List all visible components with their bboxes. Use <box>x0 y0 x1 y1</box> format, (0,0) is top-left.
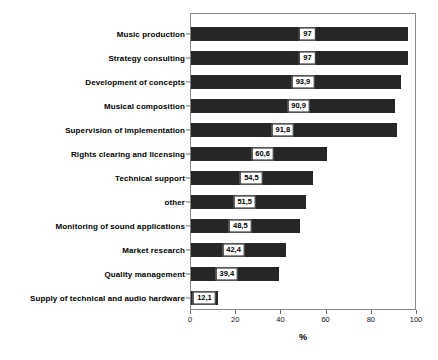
category-label: Technical support <box>115 174 185 183</box>
bar-value-label: 54,5 <box>240 172 263 185</box>
chart-row: Music production 97 <box>191 27 415 41</box>
bar-value-label: 39,4 <box>216 268 239 281</box>
x-tick-label: 80 <box>367 315 375 324</box>
bar-value-label: 48,5 <box>229 220 252 233</box>
x-tick-label: 0 <box>188 315 192 324</box>
x-tick-label: 20 <box>231 315 239 324</box>
bar-chart: Music production 97 Strategy consulting … <box>0 0 438 360</box>
bar-value-label: 97 <box>299 28 315 41</box>
chart-row: Development of concepts 93,9 <box>191 75 415 89</box>
x-tick-icon <box>235 310 236 314</box>
category-label: Development of concepts <box>85 78 185 87</box>
chart-row: Strategy consulting 97 <box>191 51 415 65</box>
category-label: Market research <box>122 246 185 255</box>
x-tick-label: 40 <box>276 315 284 324</box>
chart-row: Supply of technical and audio hardware 1… <box>191 291 415 305</box>
chart-row: other 51,5 <box>191 195 415 209</box>
category-label: Supply of technical and audio hardware <box>30 294 185 303</box>
bar-value-label: 93,9 <box>292 76 315 89</box>
chart-row: Rights clearing and licensing 60,6 <box>191 147 415 161</box>
chart-row: Monitoring of sound applications 48,5 <box>191 219 415 233</box>
category-label: Quality management <box>105 270 186 279</box>
bar-value-label: 91,8 <box>272 124 295 137</box>
category-label: Music production <box>117 30 185 39</box>
chart-row: Musical composition 90,9 <box>191 99 415 113</box>
chart-row: Quality management 39,4 <box>191 267 415 281</box>
bar-value-label: 60,6 <box>251 148 274 161</box>
x-tick-icon <box>280 310 281 314</box>
category-label: Rights clearing and licensing <box>71 150 185 159</box>
x-tick-label: 100 <box>410 315 423 324</box>
x-axis-title: % <box>190 332 416 342</box>
x-tick-label: 60 <box>321 315 329 324</box>
bar-value-label: 90,9 <box>287 100 310 113</box>
category-label: other <box>165 198 186 207</box>
bar-value-label: 51,5 <box>233 196 256 209</box>
x-tick-icon <box>326 310 327 314</box>
chart-row: Market research 42,4 <box>191 243 415 257</box>
plot-area: Music production 97 Strategy consulting … <box>190 13 416 310</box>
chart-row: Technical support 54,5 <box>191 171 415 185</box>
x-tick-icon <box>416 310 417 314</box>
category-label: Monitoring of sound applications <box>56 222 185 231</box>
chart-row: Supervision of implementation 91,8 <box>191 123 415 137</box>
category-label: Supervision of implementation <box>65 126 185 135</box>
x-tick-icon <box>190 310 191 314</box>
category-label: Strategy consulting <box>108 54 185 63</box>
bar-value-label: 42,4 <box>222 244 245 257</box>
x-tick-icon <box>371 310 372 314</box>
category-label: Musical composition <box>104 102 185 111</box>
bar-value-label: 97 <box>299 52 315 65</box>
bar-value-label: 12,1 <box>193 292 216 305</box>
